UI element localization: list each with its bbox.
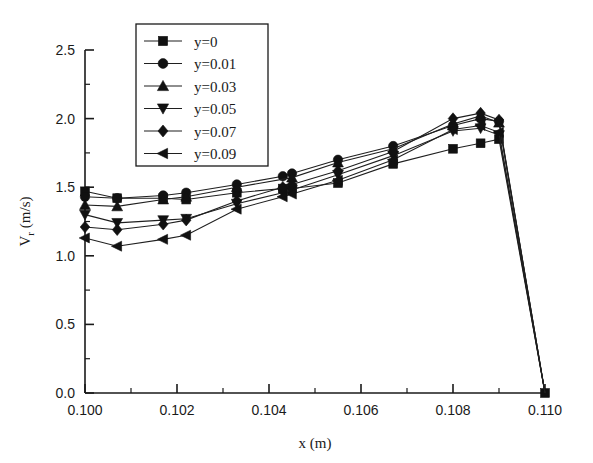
y-tick-label: 0.5 (56, 316, 76, 332)
y-tick-label: 0.0 (56, 385, 76, 401)
series-y-0 (81, 135, 550, 398)
x-tick-label: 0.108 (435, 402, 470, 418)
data-point-square (449, 144, 458, 153)
y-tick-label: 2.0 (56, 111, 76, 127)
data-point-diamond (112, 224, 122, 236)
y-axis-title: Vr (m/s) (17, 197, 36, 247)
x-tick-label: 0.106 (343, 402, 378, 418)
y-axis-title-base: V (17, 235, 33, 246)
data-point-triangle-up (80, 200, 91, 210)
data-point-triangle-left (180, 230, 190, 240)
data-point-square (476, 139, 485, 148)
data-point-square (158, 36, 167, 45)
series-polyline (85, 128, 545, 393)
legend-label: y=0.01 (194, 56, 236, 72)
y-tick-label: 1.5 (56, 179, 76, 195)
legend-label: y=0.05 (194, 101, 236, 117)
y-tick-label: 2.5 (56, 42, 76, 58)
data-point-triangle-left (111, 241, 121, 251)
x-tick-label: 0.110 (528, 402, 562, 418)
axes-layer: 0.1000.1020.1040.1060.1080.1100.00.51.01… (56, 42, 563, 418)
data-point-diamond (80, 221, 90, 233)
y-axis-title-unit: (m/s) (17, 197, 34, 232)
x-tick-label: 0.104 (251, 402, 286, 418)
x-axis-title: x (m) (299, 435, 332, 452)
svg-text:Vr (m/s): Vr (m/s) (17, 197, 36, 247)
x-tick-label: 0.100 (67, 402, 102, 418)
legend-label: y=0.03 (194, 79, 236, 95)
data-point-triangle-left (157, 234, 167, 244)
legend-label: y=0.09 (194, 146, 236, 162)
legend-label: y=0 (194, 34, 217, 50)
x-tick-label: 0.102 (159, 402, 194, 418)
chart-legend: y=0y=0.01y=0.03y=0.05y=0.07y=0.09 (136, 24, 268, 166)
data-point-circle (158, 59, 168, 69)
chart-figure: 0.1000.1020.1040.1060.1080.1100.00.51.01… (0, 0, 593, 463)
y-tick-label: 1.0 (56, 248, 76, 264)
legend-label: y=0.07 (194, 124, 237, 140)
velocity-vs-x-line-chart: 0.1000.1020.1040.1060.1080.1100.00.51.01… (0, 0, 593, 463)
